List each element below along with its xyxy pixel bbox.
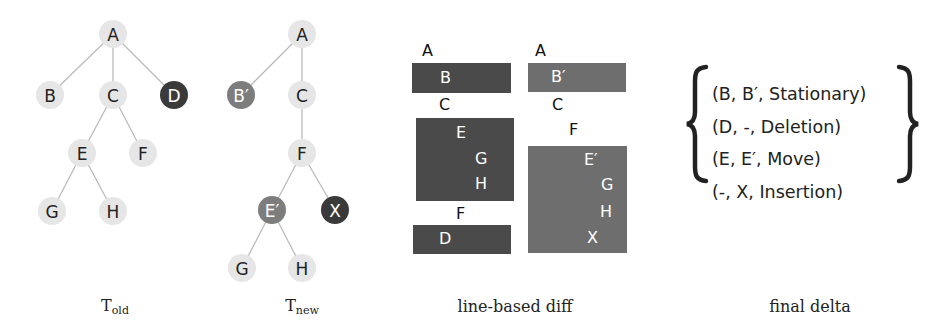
diff-old-changed-block: B: [412, 63, 511, 93]
tree-old-nodes: ABCDEFGH: [36, 20, 188, 225]
svg-text:E′: E′: [265, 201, 280, 221]
diff-new-changed-block: B′: [528, 63, 626, 92]
tree-old-node-e: E: [68, 139, 96, 167]
tree-new-node-g: G: [228, 254, 256, 282]
svg-text:F: F: [138, 144, 148, 164]
caption-tree-old-sub: old: [112, 304, 129, 317]
caption-tree-old: Told: [95, 296, 135, 317]
diff-old-block-line: D: [439, 231, 451, 247]
right-brace-icon: [895, 64, 921, 188]
svg-text:A: A: [107, 25, 119, 45]
caption-tree-new-main: T: [285, 296, 296, 315]
tree-new-node-a: A: [288, 20, 316, 48]
diff-new-block-line: E′: [584, 152, 598, 168]
diff-new-block-line: B′: [551, 69, 566, 85]
svg-text:G: G: [235, 259, 248, 279]
tree-new-node-f: F: [288, 139, 316, 167]
svg-text:A: A: [296, 25, 308, 45]
tree-old-node-b: B: [36, 81, 64, 109]
tree-new-node-b: B′: [227, 81, 255, 109]
diff-new-line-c: C: [552, 97, 563, 113]
caption-final-delta: final delta: [760, 297, 860, 316]
diff-new-block-line: X: [587, 230, 598, 246]
caption-tree-old-main: T: [101, 296, 112, 315]
tree-old-node-a: A: [99, 20, 127, 48]
tree-new-node-h: H: [288, 254, 316, 282]
diff-old-line-f: F: [456, 206, 465, 222]
diff-old-changed-block: D: [413, 225, 511, 254]
delta-tuple-deletion: (D, -, Deletion): [712, 111, 866, 144]
diff-new-changed-block: E′GHX: [528, 146, 627, 253]
tree-new-node-x: X: [321, 196, 349, 224]
diff-new-block-line: G: [601, 177, 613, 193]
svg-text:C: C: [296, 86, 308, 106]
caption-tree-new-sub: new: [296, 304, 319, 317]
caption-line-diff: line-based diff: [455, 297, 575, 316]
left-brace-icon: [684, 64, 710, 188]
svg-text:X: X: [329, 201, 341, 221]
delta-tuple-stationary: (B, B′, Stationary): [712, 78, 866, 111]
svg-text:G: G: [45, 202, 58, 222]
tree-old-node-h: H: [99, 197, 127, 225]
tree-old-node-f: F: [129, 139, 157, 167]
tree-old-edges: [50, 34, 174, 211]
diff-old-block-line: H: [475, 176, 487, 192]
diff-old-block-line: B: [440, 70, 451, 86]
diff-old-block-line: G: [475, 151, 487, 167]
diff-old-line-c: C: [439, 97, 450, 113]
svg-text:C: C: [107, 86, 119, 106]
tree-new-edges: [241, 34, 335, 268]
diff-new-line-a: A: [535, 43, 546, 59]
svg-text:B′: B′: [233, 86, 249, 106]
diff-old-line-a: A: [422, 43, 433, 59]
tree-old-node-c: C: [99, 81, 127, 109]
diff-old-changed-block: EGH: [416, 118, 514, 201]
diff-old-block-line: E: [456, 125, 466, 141]
diff-new-line-f: F: [569, 122, 578, 138]
delta-tuple-move: (E, E′, Move): [712, 143, 866, 176]
delta-tuple-insertion: (-, X, Insertion): [712, 176, 866, 209]
tree-old-node-d: D: [160, 81, 188, 109]
svg-text:H: H: [107, 202, 120, 222]
tree-new-nodes: AB′CFE′XGH: [227, 20, 349, 282]
tree-new-node-e: E′: [258, 196, 286, 224]
svg-text:B: B: [44, 86, 56, 106]
svg-text:F: F: [297, 144, 307, 164]
caption-tree-new: Tnew: [280, 296, 324, 317]
svg-text:E: E: [77, 144, 88, 164]
tree-new-node-c: C: [288, 81, 316, 109]
tree-old-node-g: G: [38, 197, 66, 225]
svg-text:H: H: [296, 259, 309, 279]
delta-tuple-list: (B, B′, Stationary) (D, -, Deletion) (E,…: [712, 78, 866, 208]
diff-new-block-line: H: [600, 204, 612, 220]
svg-text:D: D: [167, 86, 180, 106]
